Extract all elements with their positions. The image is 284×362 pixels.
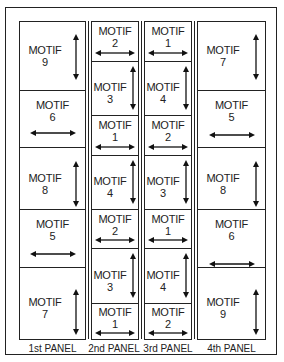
panel3-row-line xyxy=(144,21,192,22)
panel1-cell1-label: MOTIF9 xyxy=(22,44,68,68)
panel4-row-line xyxy=(197,90,266,91)
panel4-row-line xyxy=(197,267,266,268)
panel2-row-line xyxy=(91,155,139,156)
panel1-right-border xyxy=(85,21,86,339)
panel3-row-line xyxy=(144,339,192,340)
divider-line xyxy=(194,21,195,339)
panel3-cell2-label: MOTIF4 xyxy=(144,81,182,105)
vertical-arrow-icon xyxy=(256,34,257,35)
panel1-row-line xyxy=(19,90,86,91)
panel3-label: 3rd PANEL xyxy=(140,343,196,354)
panel2-row-line xyxy=(91,61,139,62)
panel4-right-border xyxy=(265,21,266,339)
panel2-right-border xyxy=(138,21,139,339)
panel3-row-line xyxy=(144,115,192,116)
vertical-arrow-icon xyxy=(256,161,257,162)
panel4-row-line xyxy=(197,339,266,340)
panel2-cell7-label: MOTIF1 xyxy=(91,306,139,330)
panel3-row-line xyxy=(144,248,192,249)
panel1-cell3-label: MOTIF8 xyxy=(22,172,68,196)
panel4-label: 4th PANEL xyxy=(197,343,266,354)
panel3-row-line xyxy=(144,61,192,62)
panel3-row-line xyxy=(144,155,192,156)
panel4-row-line xyxy=(197,21,266,22)
vertical-arrow-icon xyxy=(76,34,77,35)
panel4-cell5-label: MOTIF9 xyxy=(200,296,246,320)
panel1-row-line xyxy=(19,267,86,268)
panel2-cell3-label: MOTIF1 xyxy=(91,119,139,143)
panel2-label: 2nd PANEL xyxy=(86,343,142,354)
vertical-arrow-icon xyxy=(133,253,134,254)
panel3-cell7-label: MOTIF2 xyxy=(144,306,192,330)
panel1-cell4-label: MOTIF5 xyxy=(19,218,86,242)
vertical-arrow-icon xyxy=(186,66,187,67)
panel1-cell2-label: MOTIF6 xyxy=(19,99,86,123)
panel1-row-line xyxy=(19,209,86,210)
panel3-cell1-label: MOTIF1 xyxy=(144,25,192,49)
panel4-cell1-label: MOTIF7 xyxy=(200,44,246,68)
panel1-row-line xyxy=(19,339,86,340)
panel4-row-line xyxy=(197,147,266,148)
panel3-cell6-label: MOTIF4 xyxy=(144,269,182,293)
panel3-cell5-label: MOTIF1 xyxy=(144,213,192,237)
panel1-left-border xyxy=(19,21,20,339)
horizontal-arrow-icon xyxy=(95,147,96,148)
panel2-row-line xyxy=(91,339,139,340)
horizontal-arrow-icon xyxy=(209,264,210,265)
horizontal-arrow-icon xyxy=(95,333,96,334)
panel1-row-line xyxy=(19,147,86,148)
panel1-label: 1st PANEL xyxy=(19,343,86,354)
panel4-cell2-label: MOTIF5 xyxy=(197,99,266,123)
panel2-row-line xyxy=(91,303,139,304)
vertical-arrow-icon xyxy=(133,160,134,161)
horizontal-arrow-icon xyxy=(148,53,149,54)
panel4-row-line xyxy=(197,209,266,210)
horizontal-arrow-icon xyxy=(30,254,31,255)
panel2-row-line xyxy=(91,115,139,116)
horizontal-arrow-icon xyxy=(30,133,31,134)
horizontal-arrow-icon xyxy=(209,135,210,136)
vertical-arrow-icon xyxy=(186,160,187,161)
panel3-cell3-label: MOTIF2 xyxy=(144,119,192,143)
panel2-cell4-label: MOTIF4 xyxy=(91,175,129,199)
panel3-row-line xyxy=(144,209,192,210)
panel3-right-border xyxy=(191,21,192,339)
panel4-cell4-label: MOTIF6 xyxy=(197,218,266,242)
divider-line xyxy=(197,21,198,339)
panel3-cell4-label: MOTIF3 xyxy=(144,175,182,199)
vertical-arrow-icon xyxy=(256,289,257,290)
vertical-arrow-icon xyxy=(76,161,77,162)
horizontal-arrow-icon xyxy=(95,53,96,54)
horizontal-arrow-icon xyxy=(95,240,96,241)
panel3-row-line xyxy=(144,303,192,304)
panel2-row-line xyxy=(91,248,139,249)
panel2-cell5-label: MOTIF2 xyxy=(91,213,139,237)
horizontal-arrow-icon xyxy=(148,333,149,334)
vertical-arrow-icon xyxy=(186,253,187,254)
panel2-cell6-label: MOTIF3 xyxy=(91,269,129,293)
panel2-cell1-label: MOTIF2 xyxy=(91,25,139,49)
horizontal-arrow-icon xyxy=(148,147,149,148)
panel2-cell2-label: MOTIF3 xyxy=(91,81,129,105)
horizontal-arrow-icon xyxy=(148,240,149,241)
vertical-arrow-icon xyxy=(76,289,77,290)
panel2-row-line xyxy=(91,21,139,22)
panel2-row-line xyxy=(91,209,139,210)
divider-line xyxy=(141,21,142,339)
panel4-cell3-label: MOTIF8 xyxy=(200,172,246,196)
panel1-cell5-label: MOTIF7 xyxy=(22,296,68,320)
vertical-arrow-icon xyxy=(133,66,134,67)
divider-line xyxy=(88,21,89,339)
panel1-row-line xyxy=(19,21,86,22)
